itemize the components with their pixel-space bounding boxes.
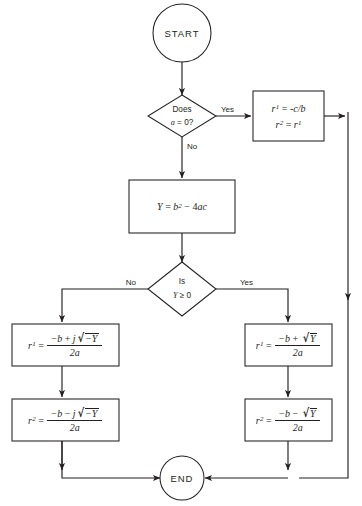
complex-r1-operator: + [62,333,73,344]
box-discriminant-row: Y = b2 − 4ac [157,201,207,212]
real-r1-denominator: 2a [293,346,303,358]
real-r2-numerator: −b − √ Y [275,407,320,422]
complex-r2-row: r2 = −b − j √ −Y [28,407,103,434]
decision-y-line1: Is [179,277,185,286]
real-r1-eq: = [264,340,275,351]
flowchart-svg: START Does a = 0? r1 = -c/b [0,0,362,506]
real-r1-radicand: Y [310,333,318,345]
square-root-icon: √ [77,332,83,345]
node-box-real-r2: r2 = −b − √ Y 2a [245,399,332,441]
real-r2-radical: √ Y [301,407,318,420]
box-linear-row-r2: r2 = r1 [272,119,306,130]
complex-r2-radicand: −Y [85,408,99,420]
complex-r2-eq: = [36,415,47,426]
complex-r2-numerator: −b − j √ −Y [47,407,102,422]
complex-r2-radical: √ −Y [76,407,99,420]
real-r2-minus-b: −b [278,408,290,419]
box-real-r2-content: r2 = −b − √ Y 2a [245,399,332,441]
complex-r1-denominator: 2a [70,346,80,358]
discriminant-minus: − [182,201,193,212]
real-r1-operator: + [290,333,301,344]
complex-r1-radicand: −Y [85,333,99,345]
real-r1-minus-b: −b [278,333,290,344]
complex-r1-row: r1 = −b + j √ −Y [28,332,103,359]
box-linear-r2-eq: = [283,119,294,130]
real-r1-numerator: −b + √ Y [275,332,320,347]
real-r1-fraction: −b + √ Y 2a [274,332,321,359]
edge-complex-r2-to-end [62,441,160,478]
square-root-icon: √ [77,407,83,420]
complex-r2-operator: − [62,408,73,419]
square-root-icon: √ [302,332,308,345]
discriminant-eq: = [163,201,174,212]
complex-r1-fraction: −b + j √ −Y 2a [46,332,103,359]
node-decision-a: Does a = 0? [148,95,216,137]
complex-r2-minus-b: −b [50,408,62,419]
box-discriminant-content: Y = b2 − 4ac [129,180,235,233]
box-complex-r1-content: r1 = −b + j √ −Y [12,324,119,366]
complex-r2-denominator: 2a [70,421,80,433]
box-complex-r2-content: r2 = −b − j √ −Y [12,399,119,441]
node-box-real-r1: r1 = −b + √ Y 2a [245,324,332,366]
edge-label-a-yes: Yes [221,105,234,114]
box-linear-r1-rhs: -c/b [290,103,306,114]
real-r1-radical: √ Y [301,332,318,345]
real-r2-operator: − [290,408,301,419]
edge-decision-y-no [62,289,148,322]
real-r2-fraction: −b − √ Y 2a [274,407,321,434]
edge-label-y-yes: Yes [240,278,253,287]
edge-label-y-no: No [126,278,137,287]
node-decision-y: Is Y ≥ 0 [148,262,216,316]
edge-label-a-no: No [187,142,198,151]
decision-a-rest: = 0? [175,118,194,127]
decision-a-line2: a = 0? [171,118,194,127]
decision-y-shape [148,262,216,316]
real-r1-row: r1 = −b + √ Y 2a [256,332,321,359]
node-end: END [160,456,204,500]
node-box-linear: r1 = -c/b r2 = r1 [253,91,324,141]
flowchart-canvas: START Does a = 0? r1 = -c/b [0,0,362,506]
real-r2-radicand: Y [310,408,318,420]
box-linear-row-r1: r1 = -c/b [272,103,306,114]
complex-r2-fraction: −b − j √ −Y 2a [46,407,103,434]
real-r2-eq: = [264,415,275,426]
complex-r1-minus-b: −b [50,333,62,344]
decision-a-shape [148,95,216,137]
box-linear-content: r1 = -c/b r2 = r1 [253,91,324,141]
node-box-discriminant: Y = b2 − 4ac [129,180,235,233]
complex-r1-numerator: −b + j √ −Y [47,332,102,347]
real-r2-denominator: 2a [293,421,303,433]
box-linear-r2-rhs-sub: 1 [298,120,302,128]
discriminant-ac: ac [197,201,206,212]
start-label: START [165,28,200,39]
node-box-complex-r1: r1 = −b + j √ −Y [12,324,119,366]
decision-a-line1: Does [172,105,191,114]
end-label: END [171,473,194,484]
box-real-r1-content: r1 = −b + √ Y 2a [245,324,332,366]
decision-y-line2: Y ≥ 0 [173,291,192,300]
complex-r1-eq: = [36,340,47,351]
node-start: START [153,4,211,62]
node-box-complex-r2: r2 = −b − j √ −Y [12,399,119,441]
box-linear-r1-eq: = [279,103,290,114]
real-r2-row: r2 = −b − √ Y 2a [256,407,321,434]
decision-y-rest: ≥ 0 [177,291,191,300]
edge-decision-y-yes [216,289,288,322]
square-root-icon: √ [302,407,308,420]
complex-r1-radical: √ −Y [76,332,99,345]
